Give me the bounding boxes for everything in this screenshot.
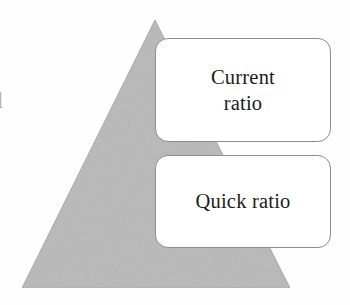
cropped-margin-glyph: l bbox=[0, 88, 6, 114]
quick-ratio-label: Quick ratio bbox=[190, 188, 297, 214]
current-ratio-label-line2: ratio bbox=[211, 90, 275, 116]
figure-canvas: l Current ratio Quick ratio bbox=[0, 0, 350, 305]
current-ratio-label: Current ratio bbox=[205, 64, 281, 116]
quick-ratio-box[interactable]: Quick ratio bbox=[155, 155, 331, 248]
current-ratio-label-line1: Current bbox=[211, 64, 275, 90]
current-ratio-box[interactable]: Current ratio bbox=[155, 38, 331, 142]
